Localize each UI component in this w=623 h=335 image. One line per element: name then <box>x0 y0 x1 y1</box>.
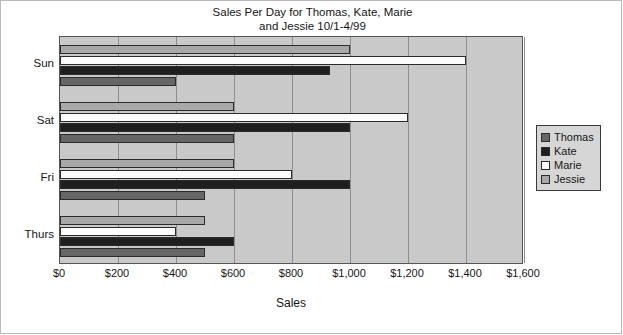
bar-jessie-sun <box>60 45 350 54</box>
bar-marie-sat <box>60 113 408 122</box>
y-axis-label-sat: Sat <box>2 114 54 126</box>
legend-item-thomas: Thomas <box>541 130 594 144</box>
legend-swatch-icon <box>541 147 550 156</box>
bar-group <box>60 37 522 94</box>
bar-group <box>60 151 522 208</box>
chart-legend: ThomasKateMarieJessie <box>536 125 601 191</box>
x-tick-label: $1,400 <box>448 267 482 279</box>
x-axis-tick-labels: $0$200$400$600$800$1,000$1,200$1,400$1,6… <box>1 267 623 283</box>
y-axis-label-sun: Sun <box>2 57 54 69</box>
legend-item-marie: Marie <box>541 158 594 172</box>
chart-frame: Sales Per Day for Thomas, Kate, Marie an… <box>0 0 622 334</box>
bar-group <box>60 208 522 265</box>
legend-item-jessie: Jessie <box>541 172 594 186</box>
gridline <box>524 37 525 263</box>
x-tick-label: $1,200 <box>390 267 424 279</box>
legend-swatch-icon <box>541 175 550 184</box>
bar-jessie-sat <box>60 102 234 111</box>
bar-thomas-fri <box>60 191 205 200</box>
legend-label: Marie <box>554 159 582 171</box>
x-tick-label: $1,600 <box>506 267 540 279</box>
bar-thomas-sat <box>60 134 234 143</box>
plot-area <box>59 36 523 264</box>
bar-kate-sat <box>60 123 350 132</box>
x-tick-label: $200 <box>105 267 129 279</box>
bar-group <box>60 94 522 151</box>
y-axis-label-thurs: Thurs <box>2 228 54 240</box>
legend-swatch-icon <box>541 161 550 170</box>
bar-kate-thurs <box>60 237 234 246</box>
legend-label: Jessie <box>554 173 585 185</box>
x-tick-label: $800 <box>279 267 303 279</box>
bar-marie-thurs <box>60 227 176 236</box>
legend-label: Kate <box>554 145 577 157</box>
x-tick-label: $0 <box>53 267 65 279</box>
y-axis-label-fri: Fri <box>2 171 54 183</box>
x-tick-label: $600 <box>221 267 245 279</box>
bar-kate-sun <box>60 66 330 75</box>
bar-thomas-thurs <box>60 248 205 257</box>
bar-marie-fri <box>60 170 292 179</box>
bar-marie-sun <box>60 56 466 65</box>
legend-item-kate: Kate <box>541 144 594 158</box>
x-tick-label: $1,000 <box>332 267 366 279</box>
bar-kate-fri <box>60 180 350 189</box>
bar-jessie-fri <box>60 159 234 168</box>
bar-thomas-sun <box>60 77 176 86</box>
y-axis-category-labels: ThursFriSatSun <box>1 36 54 264</box>
bar-jessie-thurs <box>60 216 205 225</box>
x-axis-title: Sales <box>59 296 523 310</box>
x-tick-label: $400 <box>163 267 187 279</box>
legend-label: Thomas <box>554 131 594 143</box>
chart-title: Sales Per Day for Thomas, Kate, Marie an… <box>1 6 623 33</box>
legend-swatch-icon <box>541 133 550 142</box>
